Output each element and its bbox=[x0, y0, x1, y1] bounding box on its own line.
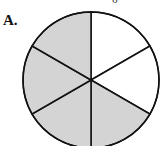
fraction-circle bbox=[0, 0, 165, 146]
